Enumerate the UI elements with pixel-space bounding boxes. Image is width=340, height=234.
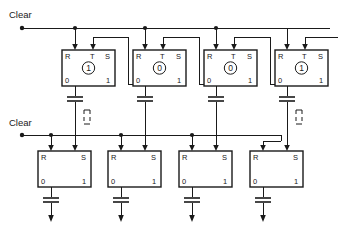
pin-label-S: S [247, 52, 252, 61]
pin-label-R: R [65, 52, 71, 61]
pin-label-S: S [318, 52, 323, 61]
pin-label-zero: 0 [182, 177, 186, 186]
flipflop-top-3[interactable]: R T S 0 1 0 [199, 28, 270, 132]
pin-label-T: T [160, 52, 165, 61]
flipflop-state-value: 1 [299, 63, 304, 73]
pin-label-R: R [136, 52, 142, 61]
pin-label-R: R [111, 153, 117, 162]
pin-label-S: S [222, 153, 227, 162]
flipflop-bottom-4[interactable]: R S 0 1 [250, 132, 303, 222]
signal-arrow-icon [260, 215, 266, 222]
circuit-diagram-canvas: R T S 0 1 1 R T S 0 [0, 0, 340, 234]
pin-label-R: R [278, 52, 284, 61]
flipflop-state-value: 0 [228, 63, 233, 73]
pin-label-R: R [207, 52, 213, 61]
pin-label-zero: 0 [253, 177, 257, 186]
pin-label-one: 1 [248, 76, 252, 85]
pin-label-zero: 0 [111, 177, 115, 186]
signal-arrow-icon [48, 215, 54, 222]
signal-arrow-icon [302, 44, 308, 50]
terminal-dot-clear-bottom [20, 133, 24, 137]
signal-arrow-icon [72, 145, 78, 151]
clear-bus-top [20, 26, 330, 30]
signal-arrow-icon [72, 44, 78, 50]
pin-label-S: S [105, 52, 110, 61]
pin-label-R: R [253, 153, 259, 162]
dashed-connector-left [84, 110, 90, 124]
pin-label-one: 1 [319, 76, 323, 85]
pin-label-one: 1 [223, 177, 227, 186]
pin-label-R: R [41, 153, 47, 162]
signal-arrow-icon [160, 44, 166, 50]
pin-label-S: S [151, 153, 156, 162]
flipflop-bottom-3[interactable]: R S 0 1 [179, 132, 232, 222]
pin-label-T: T [90, 52, 95, 61]
pin-label-S: S [176, 52, 181, 61]
flipflop-bottom-2[interactable]: R S 0 1 [108, 132, 161, 222]
pin-label-zero: 0 [136, 76, 140, 85]
signal-arrow-icon [284, 145, 290, 151]
flipflop-top-1[interactable]: R T S 0 1 1 [62, 28, 128, 132]
pin-label-one: 1 [294, 177, 298, 186]
pin-label-T: T [302, 52, 307, 61]
flipflop-state-value: 1 [86, 63, 91, 73]
clear-label-bottom: Clear [9, 117, 32, 128]
flipflop-state-value: 0 [157, 63, 162, 73]
pin-label-zero: 0 [278, 76, 282, 85]
pin-label-zero: 0 [41, 177, 45, 186]
signal-arrow-icon [213, 145, 219, 151]
flipflop-top-2[interactable]: R T S 0 1 0 [128, 28, 199, 132]
signal-arrow-icon [189, 145, 195, 151]
signal-arrow-icon [48, 145, 54, 151]
signal-arrow-icon [142, 145, 148, 151]
pin-label-zero: 0 [207, 76, 211, 85]
signal-arrow-icon [213, 44, 219, 50]
pin-label-zero: 0 [65, 76, 69, 85]
pin-label-T: T [231, 52, 236, 61]
signal-arrow-icon [90, 44, 96, 50]
clear-label-top: Clear [9, 9, 32, 20]
pin-label-R: R [182, 153, 188, 162]
clear-bus-bottom [20, 133, 281, 141]
signal-arrow-icon [118, 215, 124, 222]
pin-label-one: 1 [152, 177, 156, 186]
signal-arrow-icon [260, 145, 266, 151]
signal-arrow-icon [189, 215, 195, 222]
flipflop-top-4[interactable]: R T S 0 1 1 [270, 28, 338, 132]
flipflop-bottom-1[interactable]: R S 0 1 [38, 132, 91, 222]
pin-label-one: 1 [106, 76, 110, 85]
pin-label-S: S [293, 153, 298, 162]
dashed-connector-right [296, 110, 302, 124]
circuit-schematic: R T S 0 1 1 R T S 0 [0, 0, 340, 234]
signal-arrow-icon [231, 44, 237, 50]
pin-label-one: 1 [82, 177, 86, 186]
pin-label-one: 1 [177, 76, 181, 85]
terminal-dot-clear-top [20, 26, 24, 30]
pin-label-S: S [81, 153, 86, 162]
signal-arrow-icon [284, 44, 290, 50]
signal-arrow-icon [142, 44, 148, 50]
signal-arrow-icon [118, 145, 124, 151]
